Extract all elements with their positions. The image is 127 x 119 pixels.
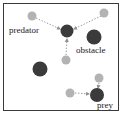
label-predator: predator — [9, 25, 39, 35]
arrow-below-to-predator — [66, 39, 67, 55]
neighbor-preyup-marker — [95, 74, 104, 83]
obstacle-left-marker — [33, 62, 48, 77]
predator-body-marker — [61, 25, 74, 38]
label-prey: prey — [97, 100, 113, 110]
label-obstacle: obstacle — [76, 45, 106, 55]
arrow-upright-to-predator — [74, 16, 101, 29]
neighbor-upright-marker — [100, 9, 109, 18]
neighbor-below-marker — [62, 56, 71, 65]
arrow-preyleft-to-prey — [75, 93, 89, 94]
marker-layer — [28, 9, 109, 103]
neighbor-preyleft-marker — [66, 89, 75, 98]
arrow-preyup-to-prey — [98, 83, 99, 88]
neighbor-upleft-marker — [28, 12, 37, 21]
figure-root: predator obstacle prey — [0, 0, 127, 119]
obstacle-body-marker — [87, 30, 102, 45]
arrow-upleft-to-predator — [36, 18, 60, 29]
